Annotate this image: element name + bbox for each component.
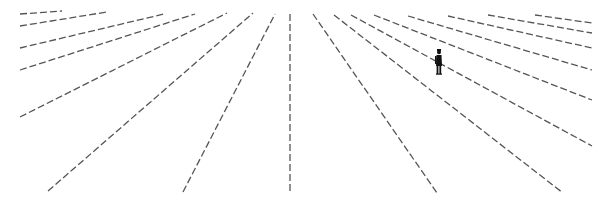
standing-person-icon <box>435 49 442 75</box>
dashed-line-5 <box>20 13 227 117</box>
dashed-line-2 <box>20 12 107 26</box>
perspective-lines-drawing <box>0 0 609 205</box>
dashed-perspective-lines <box>20 11 592 193</box>
dashed-line-6 <box>48 13 253 191</box>
dashed-line-7 <box>183 14 275 192</box>
dashed-line-9 <box>313 14 437 193</box>
dashed-line-16 <box>535 15 592 23</box>
dashed-line-3 <box>20 14 164 48</box>
dashed-line-15 <box>488 15 592 33</box>
perspective-illustration <box>0 0 609 205</box>
dashed-line-10 <box>334 15 563 193</box>
dashed-line-1 <box>20 11 62 14</box>
